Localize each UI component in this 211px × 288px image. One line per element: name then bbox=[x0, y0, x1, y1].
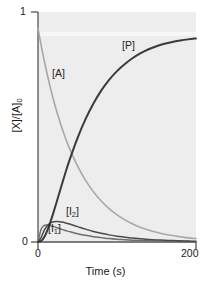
y-axis-title-subscript: 0 bbox=[15, 98, 24, 102]
y-axis-tick-label-max: 1 bbox=[20, 6, 26, 17]
chart-plot-svg bbox=[0, 0, 211, 288]
curve-label-i2-sub: 2 bbox=[72, 210, 76, 219]
x-axis-tick-label-max: 200 bbox=[181, 248, 199, 259]
scan-artifact-band bbox=[38, 32, 196, 36]
curve-label-a: [A] bbox=[52, 68, 65, 79]
x-axis-tick-label-min: 0 bbox=[35, 248, 41, 259]
x-axis-title: Time (s) bbox=[0, 266, 211, 277]
curve-label-i1-sub: 1 bbox=[54, 227, 58, 236]
curve-label-p: [P] bbox=[122, 40, 135, 51]
y-axis-title: [X]/[A]0 bbox=[11, 56, 22, 176]
curve-label-i2-base: [I bbox=[66, 205, 72, 217]
curve-label-i1: [I1] bbox=[48, 223, 61, 234]
chart-figure: 1 0 0 200 Time (s) [X]/[A]0 [A] [P] [I1]… bbox=[0, 0, 211, 288]
curve-label-i2: [I2] bbox=[66, 206, 79, 217]
curve-label-i1-base: [I bbox=[48, 222, 54, 234]
y-axis-title-base: [X]/[A] bbox=[10, 103, 22, 133]
y-axis-tick-label-min: 0 bbox=[22, 236, 28, 247]
